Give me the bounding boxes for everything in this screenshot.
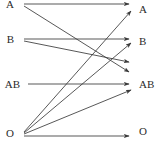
node-label-right-o: O <box>139 126 147 137</box>
node-label-left-o: O <box>6 128 14 139</box>
edge-o-to-b <box>24 43 131 133</box>
node-label-left-b: B <box>7 34 14 45</box>
edge-o-to-a <box>24 11 131 132</box>
edge-b-to-ab <box>24 41 129 62</box>
edge-layer <box>0 0 162 150</box>
node-label-right-b: B <box>139 36 146 47</box>
node-label-left-a: A <box>6 0 14 10</box>
node-label-right-a: A <box>139 4 147 15</box>
node-label-left-ab: AB <box>5 79 20 90</box>
blood-type-compatibility-diagram: ABABO ABABO <box>0 0 162 150</box>
node-label-right-ab: AB <box>139 79 154 90</box>
edges-group <box>24 4 131 136</box>
edge-o-to-ab <box>24 90 131 134</box>
